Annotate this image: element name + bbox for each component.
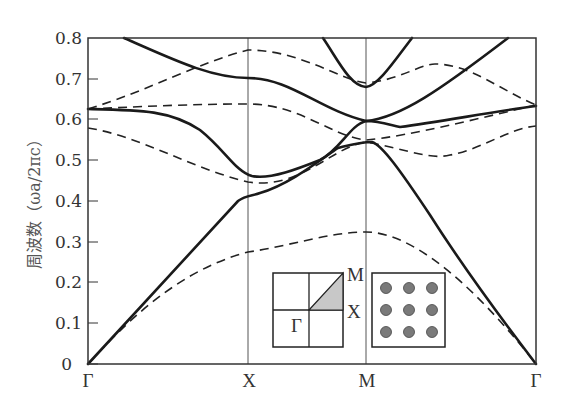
solid-band-4 — [323, 38, 412, 87]
inset-label-X: X — [347, 301, 361, 322]
y-tick-0.6: 0.6 — [55, 109, 82, 129]
y-tick-0: 0 — [61, 354, 72, 374]
y-tick-0.4: 0.4 — [55, 191, 82, 211]
x-tick-gamma-start: Γ — [83, 370, 94, 391]
dashed-band-3 — [88, 104, 536, 140]
inset-label-M: M — [347, 264, 364, 285]
rod-lattice-inset — [372, 273, 445, 347]
dashed-band-2 — [88, 126, 536, 183]
y-tick-0.1: 0.1 — [55, 313, 82, 333]
solid-band-3 — [124, 38, 508, 121]
inset-label-gamma: Γ — [291, 315, 302, 336]
y-tick-0.8: 0.8 — [55, 28, 82, 48]
y-ticks — [88, 79, 98, 364]
y-tick-0.7: 0.7 — [55, 69, 82, 89]
x-tick-X: X — [242, 370, 256, 391]
x-tick-labels: Γ X M Γ — [83, 370, 542, 391]
band-structure-chart: 0 0.1 0.2 0.3 0.4 0.5 0.6 0.7 0.8 周波数（ωa… — [0, 0, 562, 403]
y-axis-label: 周波数（ωa/2πc） — [25, 131, 44, 269]
y-tick-labels: 0 0.1 0.2 0.3 0.4 0.5 0.6 0.7 0.8 — [55, 28, 82, 374]
x-tick-gamma-end: Γ — [531, 370, 542, 391]
y-tick-0.3: 0.3 — [55, 232, 82, 252]
brillouin-zone-inset: M X Γ — [273, 264, 364, 347]
x-tick-M: M — [359, 370, 376, 391]
y-tick-0.2: 0.2 — [55, 272, 82, 292]
y-tick-0.5: 0.5 — [55, 150, 82, 170]
